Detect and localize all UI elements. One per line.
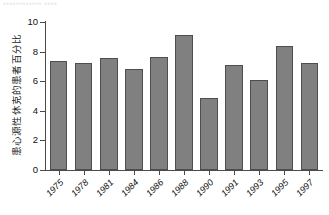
y-axis-tick-label: 8: [22, 47, 38, 57]
bar: [125, 69, 143, 170]
y-axis-tick: [40, 111, 45, 112]
x-axis-tick: [309, 171, 310, 175]
bar: [175, 35, 193, 170]
x-axis-tick: [209, 171, 210, 175]
y-axis-tick-label: 10: [22, 17, 38, 27]
bar: [276, 46, 294, 170]
x-axis-tick: [159, 171, 160, 175]
y-axis-tick: [40, 52, 45, 53]
x-axis-tick: [259, 171, 260, 175]
x-axis-tick-label: 1997: [285, 178, 315, 208]
y-axis-tick-label: 0: [22, 165, 38, 175]
x-axis-tick: [134, 171, 135, 175]
bar: [225, 65, 243, 170]
bar: [200, 98, 218, 170]
bar: [100, 58, 118, 170]
bar: [150, 57, 168, 170]
x-axis-tick-label: 1975: [34, 178, 64, 208]
bar-chart-figure: 患心源性休克的患者百分比 0246810 1975197819811984198…: [0, 0, 329, 215]
x-axis-tick: [234, 171, 235, 175]
bar: [50, 61, 68, 170]
x-axis-tick: [184, 171, 185, 175]
y-axis-tick: [40, 170, 45, 171]
bar: [250, 80, 268, 170]
y-axis-tick-label: 2: [22, 135, 38, 145]
y-axis-tick: [40, 140, 45, 141]
bar: [301, 63, 319, 170]
bar: [75, 63, 93, 170]
y-axis-title-text: 患心源性休克的患者百分比: [9, 34, 23, 156]
x-axis-tick: [84, 171, 85, 175]
plot-area: [46, 22, 322, 170]
y-axis-tick: [40, 81, 45, 82]
y-axis-tick-label: 4: [22, 106, 38, 116]
y-axis-tick: [40, 22, 45, 23]
x-axis-tick: [109, 171, 110, 175]
y-axis-title: 患心源性休克的患者百分比: [9, 22, 23, 168]
x-axis-tick: [59, 171, 60, 175]
y-axis-tick-label: 6: [22, 76, 38, 86]
x-axis-tick: [284, 171, 285, 175]
